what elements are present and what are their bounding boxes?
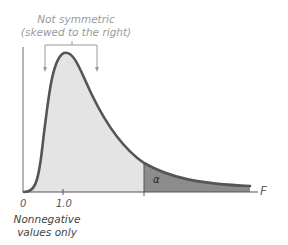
skew-annotation: Not symmetric (skewed to the right) xyxy=(20,13,132,39)
arrow-right-icon xyxy=(95,67,99,72)
body-area xyxy=(24,53,144,192)
x-axis-label: F xyxy=(260,184,267,198)
tick-label-one: 1.0 xyxy=(56,198,72,209)
footnote-line2: values only xyxy=(8,226,86,239)
annotation-line1: Not symmetric xyxy=(20,13,132,26)
tail-label-alpha: α xyxy=(153,174,160,185)
tick-label-zero: 0 xyxy=(20,198,26,209)
footnote-line1: Nonnegative xyxy=(8,213,86,226)
nonnegative-footnote: Nonnegative values only xyxy=(8,213,86,239)
arrow-left-icon xyxy=(43,67,47,72)
annotation-line2: (skewed to the right) xyxy=(20,26,132,39)
